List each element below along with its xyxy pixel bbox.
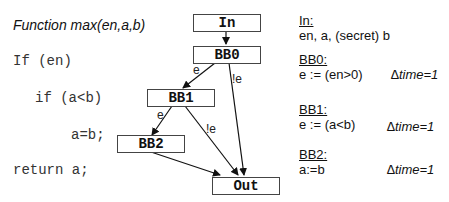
edge-label-bb0-out: !e <box>232 72 242 86</box>
edge-bb1-out <box>185 106 238 175</box>
node-bb0: BB0 <box>193 46 261 64</box>
info-bb1-text: e := (a<b) <box>299 117 355 132</box>
info-in-text: en, a, (secret) b <box>299 28 390 43</box>
info-bb2-text: a:=b <box>299 162 325 177</box>
info-bb1-dtime: ∆time=1 <box>387 119 434 134</box>
info-bb2-dtime: ∆time=1 <box>387 162 434 177</box>
edge-label-bb1-bb2: e <box>157 108 164 122</box>
edge-label-bb1-out: !e <box>206 122 216 136</box>
node-in: In <box>193 14 261 32</box>
edge-bb2-out <box>151 152 220 175</box>
info-bb2-heading: BB2: <box>299 147 327 162</box>
diagram: Function max(en,a,b) If (en) if (a<b) a=… <box>0 0 449 202</box>
node-bb2: BB2 <box>117 135 185 153</box>
info-bb0-dtime: ∆time=1 <box>391 67 438 82</box>
node-out: Out <box>212 177 280 195</box>
info-bb0-heading: BB0: <box>299 52 327 67</box>
info-in-heading: In: <box>299 13 313 28</box>
node-bb1: BB1 <box>147 89 215 107</box>
info-bb0-text: e := (en>0) <box>299 67 363 82</box>
info-bb1-heading: BB1: <box>299 102 327 117</box>
edge-label-bb0-bb1: e <box>193 63 200 77</box>
